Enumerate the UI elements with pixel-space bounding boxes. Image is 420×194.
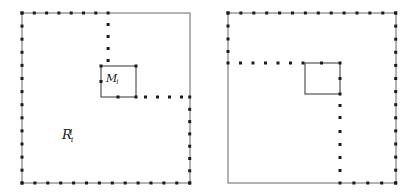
- panel-right-region: Rir Mi: [210, 0, 420, 194]
- m-label-left: Mi: [106, 73, 119, 86]
- vertical-connector-dots-right: [339, 104, 342, 172]
- panel-right-graphics: [210, 0, 420, 194]
- figure-root: Ril Mi: [0, 0, 420, 194]
- panel-left-graphics: [0, 0, 210, 194]
- vertical-connector-dots-left: [107, 23, 110, 62]
- outer-rectangle-right: [228, 13, 396, 183]
- horizontal-connector-dots-left: [144, 96, 183, 99]
- horizontal-connector-dots-right: [239, 62, 305, 65]
- m-label-left-subscript: i: [116, 78, 118, 86]
- region-label-left: Ril: [62, 126, 72, 144]
- inner-rectangle-M-right: [305, 63, 340, 94]
- panel-left-region: Ril Mi: [0, 0, 210, 194]
- outer-rectangle-left: [22, 13, 190, 183]
